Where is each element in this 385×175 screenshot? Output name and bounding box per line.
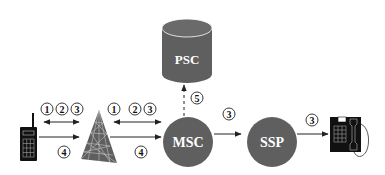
step-3-label: 3	[148, 104, 153, 115]
ssp-node: SSP	[247, 117, 297, 167]
step-3-msc-ssp-label: 3	[227, 109, 232, 120]
step-4-label: 4	[62, 147, 67, 158]
psc-label: PSC	[175, 52, 200, 67]
psc-cylinder-top	[162, 19, 212, 37]
step-badges-handset-tower-top: 1 2 3	[41, 103, 83, 115]
step-1-label: 1	[45, 104, 50, 115]
step-2-label: 2	[60, 104, 65, 115]
step-4-label: 4	[139, 147, 144, 158]
step-badges-tower-msc-top: 1 2 3	[108, 103, 156, 115]
ssp-label: SSP	[260, 135, 285, 150]
step-3-label: 3	[75, 104, 80, 115]
step-badge-3-msc-ssp: 3	[223, 108, 235, 120]
call-flow-diagram: PSC 5 MSC SSP 3 3	[0, 0, 385, 175]
mobile-handset-icon	[20, 113, 37, 161]
step-badge-4-handset-tower: 4	[58, 146, 70, 158]
step-1-label: 1	[112, 104, 117, 115]
step-badge-3-ssp-phone: 3	[306, 114, 318, 126]
step-badge-5: 5	[191, 92, 203, 104]
step-2-label: 2	[133, 104, 138, 115]
step-3-ssp-phone-label: 3	[310, 115, 315, 126]
msc-label: MSC	[172, 135, 203, 150]
msc-node: MSC	[163, 117, 213, 167]
desk-telephone-icon	[330, 117, 369, 157]
step-badge-4-tower-msc: 4	[135, 146, 147, 158]
psc-database-node: PSC	[162, 19, 212, 83]
step-5-label: 5	[195, 93, 200, 104]
